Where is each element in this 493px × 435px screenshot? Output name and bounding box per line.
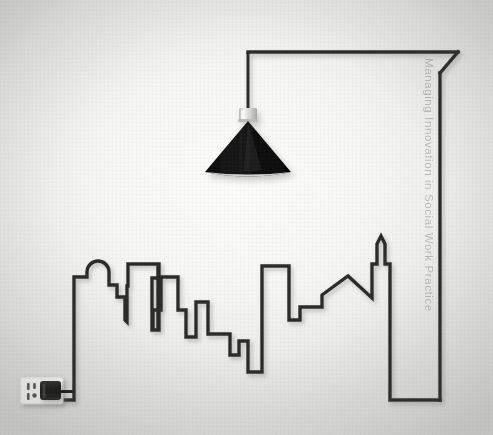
plug-cord-tail (61, 390, 73, 393)
outlet-slot-left-top (27, 383, 30, 390)
cord-corner-chamfer (440, 52, 458, 73)
city-skyline (47, 236, 440, 400)
cord-skyline-lamp-illustration (0, 0, 493, 435)
outlet-slot-right-top (33, 383, 36, 389)
lamp-socket-highlight (241, 110, 245, 119)
artwork-svg-wrapper (0, 0, 493, 435)
plug-highlight (43, 384, 46, 398)
power-cord-path-group (39, 52, 459, 400)
outlet-slot-left-bottom (27, 393, 30, 400)
illustration-canvas: Managing Innovation in Social Work Pract… (0, 0, 493, 435)
outlet-ground-hole (32, 393, 36, 397)
pendant-lamp (205, 108, 291, 177)
